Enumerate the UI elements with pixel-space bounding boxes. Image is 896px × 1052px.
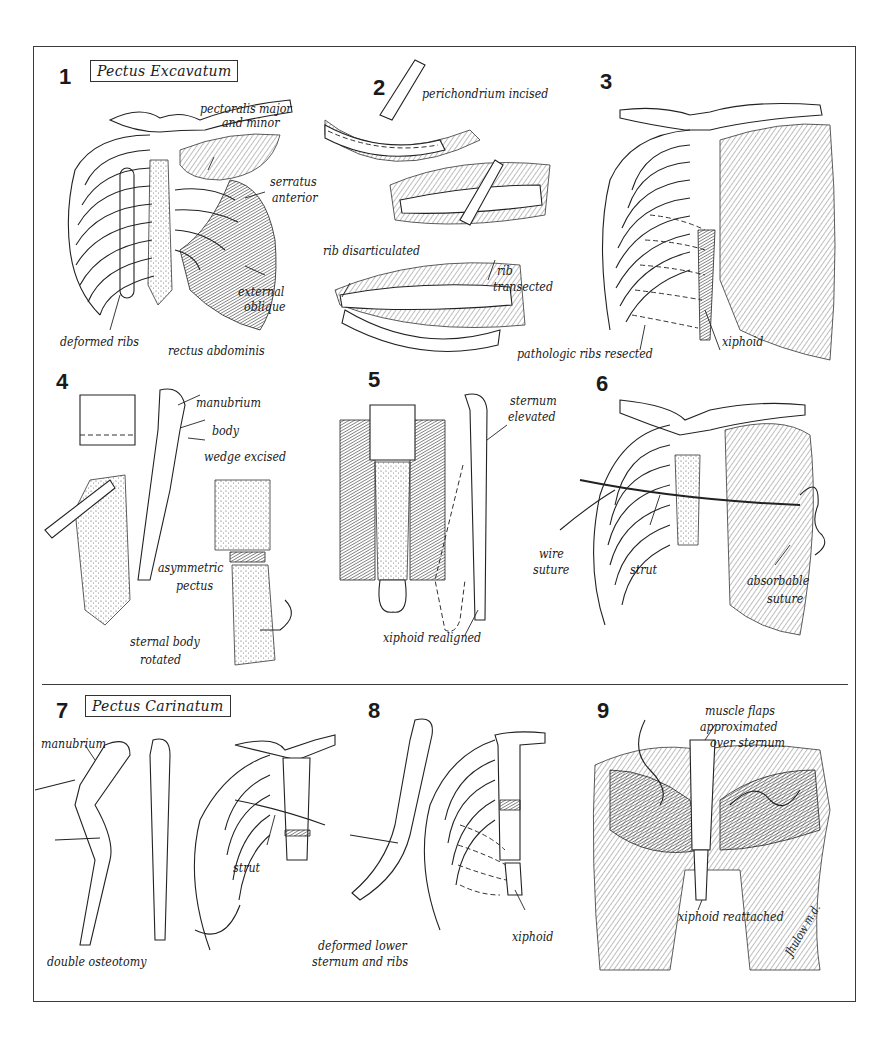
label-sternum: sternum [510, 393, 557, 407]
label-over-sternum: over sternum [710, 735, 785, 749]
label-sternum-and-ribs: sternum and ribs [312, 954, 408, 968]
label-xiphoid: xiphoid [722, 334, 763, 348]
label-asymmetric: asymmetric [158, 560, 224, 574]
label-rectus-abdominis: rectus abdominis [168, 343, 265, 357]
label-wire: wire [539, 546, 564, 560]
label-rib: rib [497, 263, 513, 277]
panel-number: 3 [600, 71, 612, 93]
label-sternal-body: sternal body [130, 634, 200, 648]
label-body: body [212, 423, 239, 437]
section-title-excavatum: Pectus Excavatum [90, 60, 238, 82]
label-strut: strut [233, 860, 260, 874]
label-perichondrium-incised: perichondrium incised [422, 86, 548, 100]
label-wire-suture: suture [533, 562, 569, 576]
muscle-flap-closure-illustration [590, 710, 850, 980]
label-elevated: elevated [508, 409, 556, 423]
label-manubrium: manubrium [196, 395, 261, 409]
label-double-osteotomy: double osteotomy [47, 954, 146, 968]
panel-number: 1 [59, 66, 71, 88]
label-strut: strut [630, 562, 657, 576]
section-divider [42, 684, 848, 685]
strut-fixation-illustration [560, 395, 850, 655]
label-rotated: rotated [140, 652, 181, 666]
sternum-elevation-illustration [335, 380, 525, 630]
label-xiphoid-reattached: xiphoid reattached [678, 909, 784, 923]
label-muscle-flaps: muscle flaps [705, 703, 775, 717]
label-wedge-excised: wedge excised [204, 449, 286, 463]
label-manubrium: manubrium [41, 736, 106, 750]
double-osteotomy-illustration [35, 730, 335, 960]
label-absorbable-suture: suture [767, 591, 803, 605]
label-xiphoid: xiphoid [512, 929, 553, 943]
label-external-oblique: external [238, 284, 284, 298]
label-absorbable: absorbable [747, 573, 809, 587]
label-pathologic-ribs-resected: pathologic ribs resected [517, 346, 653, 360]
label-serratus: serratus [270, 174, 317, 188]
label-transected: transected [493, 279, 553, 293]
label-approximated: approximated [700, 719, 778, 733]
label-rib-disarticulated: rib disarticulated [323, 243, 420, 257]
label-pectoralis-2: and minor [222, 115, 279, 129]
panel-number: 7 [56, 700, 68, 722]
label-serratus-2: anterior [272, 190, 318, 204]
section-title-carinatum: Pectus Carinatum [85, 695, 231, 717]
label-xiphoid-realigned: xiphoid realigned [383, 630, 481, 644]
panel-number: 6 [596, 373, 608, 395]
label-external-oblique-2: oblique [244, 299, 286, 313]
ribs-resected-illustration [590, 100, 860, 350]
label-deformed-ribs: deformed ribs [60, 334, 139, 348]
label-deformed-lower: deformed lower [318, 938, 407, 952]
label-pectus: pectus [176, 578, 213, 592]
deformed-sternum-illustration [340, 715, 570, 955]
